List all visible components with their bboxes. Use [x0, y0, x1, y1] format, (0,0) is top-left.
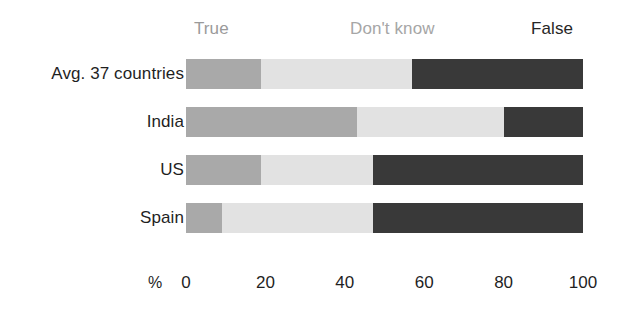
bar-segment-dont-know: [261, 155, 372, 185]
bar-segment-true: [186, 107, 357, 137]
bar-segment-true: [186, 155, 261, 185]
x-axis-tick: 0: [181, 266, 190, 300]
x-axis-tick: 20: [256, 266, 275, 300]
legend-item-dont-know: Don't know: [350, 14, 435, 44]
stacked-bar: [186, 59, 583, 89]
stacked-bar: [186, 203, 583, 233]
chart-legend: True Don't know False: [0, 14, 624, 44]
bar-segment-false: [373, 203, 583, 233]
chart-row: Avg. 37 countries: [0, 58, 624, 90]
bar-segment-true: [186, 59, 261, 89]
x-axis-tick: 40: [335, 266, 354, 300]
bar-segment-dont-know: [261, 59, 412, 89]
x-axis-tick: 100: [569, 266, 597, 300]
x-axis-tick: 80: [494, 266, 513, 300]
bar-segment-false: [412, 59, 583, 89]
bar-segment-false: [504, 107, 583, 137]
bar-segment-dont-know: [357, 107, 504, 137]
row-label: Spain: [140, 202, 184, 234]
bar-segment-true: [186, 203, 222, 233]
plot-area: Avg. 37 countriesIndiaUSSpain: [0, 58, 624, 258]
x-axis-unit-label: %: [148, 266, 162, 300]
bar-segment-dont-know: [222, 203, 373, 233]
row-label: India: [147, 106, 184, 138]
bar-segment-false: [373, 155, 583, 185]
stacked-bar: [186, 107, 583, 137]
stacked-bar-chart: True Don't know False Avg. 37 countriesI…: [0, 0, 624, 328]
chart-row: US: [0, 154, 624, 186]
x-axis-tick: 60: [415, 266, 434, 300]
chart-row: India: [0, 106, 624, 138]
legend-item-true: True: [194, 14, 229, 44]
row-label: Avg. 37 countries: [51, 58, 184, 90]
stacked-bar: [186, 155, 583, 185]
legend-item-false: False: [531, 14, 573, 44]
row-label: US: [160, 154, 184, 186]
x-axis: % 020406080100: [0, 266, 624, 300]
chart-row: Spain: [0, 202, 624, 234]
